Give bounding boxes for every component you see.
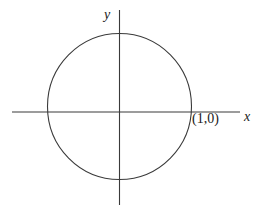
point-label-1-0: (1,0) — [192, 112, 219, 126]
coordinate-plane-svg — [0, 0, 265, 218]
y-axis-label: y — [104, 8, 110, 22]
unit-circle-figure: y x (1,0) — [0, 0, 265, 218]
x-axis-label: x — [244, 110, 250, 124]
